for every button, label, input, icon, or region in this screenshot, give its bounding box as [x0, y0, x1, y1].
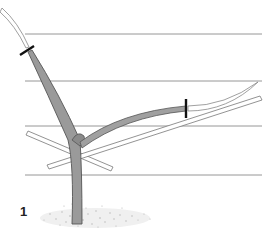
- leader-shoot: [0, 8, 29, 48]
- pruning-illustration: [0, 0, 270, 230]
- ground-stipple: [40, 203, 151, 228]
- figure-number: 1: [20, 204, 27, 219]
- side-branch: [80, 82, 258, 148]
